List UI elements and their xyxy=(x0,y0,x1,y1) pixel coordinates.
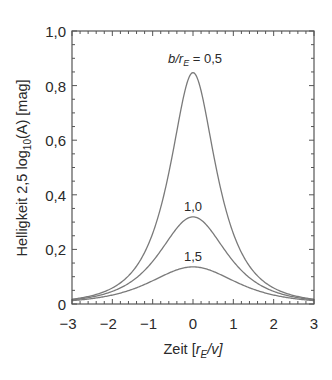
curve-label-1-5: 1,5 xyxy=(184,249,202,264)
x-tick-label: −2 xyxy=(100,315,117,332)
curves-group xyxy=(72,73,314,301)
curve-label-1-0: 1,0 xyxy=(184,199,202,214)
y-tick-label: 0,2 xyxy=(45,241,66,258)
y-tick-label: 0 xyxy=(58,296,66,313)
x-axis-title: Zeit [rE/v] xyxy=(163,341,223,360)
curve-label-0-5: b/rE = 0,5 xyxy=(168,51,222,68)
microlensing-light-curve-chart: −3−2−10123 00,20,40,60,81,0 Zeit [rE/v] … xyxy=(0,0,332,380)
x-tick-label: −3 xyxy=(59,315,76,332)
y-tick-label: 0,4 xyxy=(45,187,66,204)
y-tick-label: 0,8 xyxy=(45,78,66,95)
y-tick-label: 0,6 xyxy=(45,132,66,149)
x-tick-label: 0 xyxy=(189,315,197,332)
curve-b-1-5 xyxy=(72,267,314,301)
x-tick-label: 1 xyxy=(229,315,237,332)
y-axis-title: Helligkeit 2,5 log10(A) [mag] xyxy=(14,79,33,256)
curve-b-0-5 xyxy=(72,73,314,300)
x-tick-label: 3 xyxy=(310,315,318,332)
x-tick-label: −1 xyxy=(140,315,157,332)
x-tick-label: 2 xyxy=(269,315,277,332)
y-tick-label: 1,0 xyxy=(45,23,66,40)
y-tick-labels: 00,20,40,60,81,0 xyxy=(45,23,66,313)
x-tick-labels: −3−2−10123 xyxy=(59,315,318,332)
